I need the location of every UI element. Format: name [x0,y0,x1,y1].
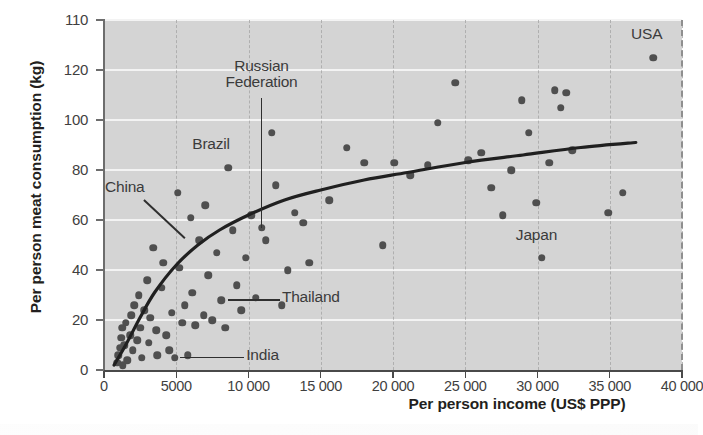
y-axis-tick-label: 100 [40,111,88,128]
x-axis-tick [465,371,466,378]
x-axis-tick-label: 0 [100,378,108,394]
annotation-india: India [246,347,279,363]
y-axis-tick-label: 80 [40,161,88,178]
y-axis-tick [96,119,104,120]
annotation-leader-russian-federation [261,98,263,228]
annotation-leader-thailand [228,299,280,301]
y-axis-tick [96,269,104,270]
x-axis-tick-label: 30 000 [516,378,559,394]
plot-area: USAJapanRussianFederationBrazilChinaThai… [104,20,682,370]
annotation-russian-federation: RussianFederation [200,58,324,91]
x-axis-tick [320,371,321,378]
y-axis-tick [96,169,104,170]
annotation-leader-india [180,357,244,359]
trend-line [104,20,682,370]
x-axis-tick [103,371,104,378]
y-axis-tick-label: 0 [40,361,88,378]
y-axis-tick-label: 40 [40,261,88,278]
x-axis-tick-label: 15 000 [299,378,342,394]
y-axis-tick-label: 20 [40,311,88,328]
x-axis-tick [392,371,393,378]
y-axis-tick [96,219,104,220]
y-axis-tick [96,319,104,320]
x-axis-tick [609,371,610,378]
annotation-brazil: Brazil [192,136,230,152]
x-axis-tick-label: 35 000 [588,378,631,394]
x-axis-tick-label: 40 000 [661,378,703,394]
x-axis-tick [176,371,177,378]
x-axis-tick [681,371,682,378]
x-axis-tick-label: 10 000 [227,378,270,394]
x-axis-title: Per person income (US$ PPP) [352,395,682,413]
x-axis-tick [537,371,538,378]
caption-strip [0,424,698,435]
y-axis-line [103,19,105,371]
y-axis-tick [96,69,104,70]
annotation-usa: USA [631,26,662,42]
x-axis-tick-label: 5000 [161,378,192,394]
annotation-china: China [105,179,145,195]
x-axis-tick-label: 25 000 [444,378,487,394]
annotation-thailand: Thailand [282,289,340,305]
x-axis-tick [248,371,249,378]
y-axis-tick-label: 120 [40,61,88,78]
x-axis-tick-label: 20 000 [372,378,415,394]
y-axis-tick-label: 60 [40,211,88,228]
y-axis-tick-label: 110 [40,11,88,28]
y-axis-tick [96,19,104,20]
annotation-japan: Japan [516,227,557,243]
